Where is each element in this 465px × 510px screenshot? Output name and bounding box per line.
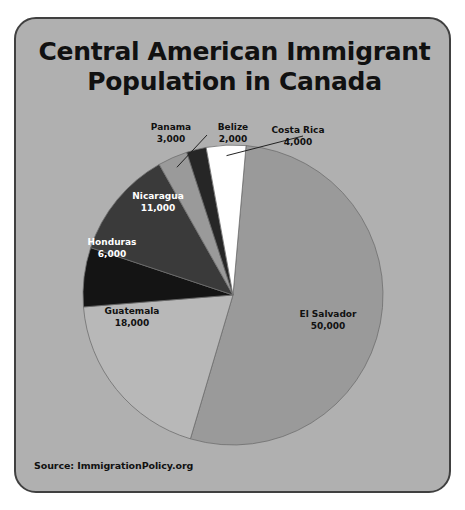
source-note: Source: ImmigrationPolicy.org <box>34 460 193 471</box>
pie-chart-svg <box>16 19 451 493</box>
pie-slice-group <box>83 145 383 445</box>
infographic-card: Central American Immigrant Population in… <box>14 17 451 493</box>
pie-chart: El Salvador 50,000 Guatemala 18,000 Hond… <box>16 19 451 493</box>
